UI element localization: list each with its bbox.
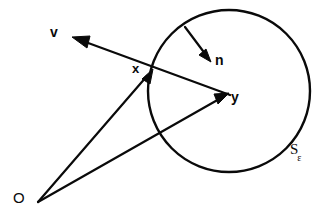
- vector-n: [185, 27, 211, 62]
- label-n: n: [215, 53, 224, 67]
- circle-s-epsilon: [148, 10, 310, 172]
- ray-origin-to-y: [38, 93, 229, 202]
- label-x: x: [132, 62, 139, 75]
- label-v: v: [50, 25, 58, 39]
- label-s-epsilon: Sε: [290, 142, 303, 160]
- diagram-canvas: v x n y O Sε: [0, 0, 330, 216]
- vector-v: [72, 36, 230, 95]
- label-origin: O: [13, 190, 25, 205]
- label-y: y: [231, 90, 239, 104]
- ray-origin-to-x: [38, 69, 153, 202]
- label-s-subscript-epsilon: ε: [297, 152, 301, 163]
